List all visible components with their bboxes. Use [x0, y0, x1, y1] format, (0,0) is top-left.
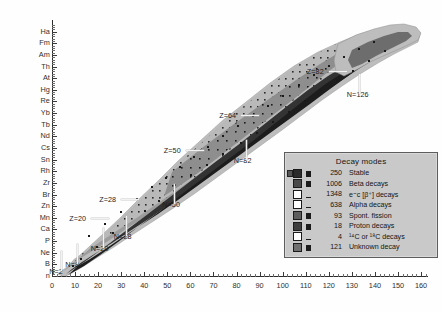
legend-bar-glyph: [306, 223, 311, 230]
magic-number-label: N=126: [347, 90, 369, 99]
y-axis-label: Cs: [4, 144, 50, 152]
legend-bar-glyph: [306, 191, 311, 198]
magic-number-guide-line: [91, 218, 109, 219]
y-axis-label: Am: [4, 51, 50, 59]
y-axis-label: Hg: [4, 86, 50, 94]
y-axis-label: Ca: [4, 225, 50, 233]
legend-title: Decay modes: [285, 157, 437, 166]
magic-number-guide-line: [77, 244, 78, 264]
y-axis-label: Th: [4, 63, 50, 71]
y-axis-label: Rh: [4, 167, 50, 175]
chart-of-nuclides: HaFmAmThAtHgReYbTbNdCsSnRhZrBrZnMnCaPNeB…: [0, 0, 442, 312]
magic-number-guide-line: [121, 199, 139, 200]
magic-number-guide-line: [359, 74, 360, 94]
magic-number-guide-line: [246, 140, 247, 160]
y-axis-label: Ha: [4, 28, 50, 36]
legend-marker-icon: [287, 170, 293, 177]
y-axis-label: Zn: [4, 202, 50, 210]
legend-bar-glyph: [306, 170, 311, 177]
y-axis-label: Re: [4, 97, 50, 105]
legend-bar-glyph: [306, 244, 311, 251]
legend-bar-glyph: [306, 212, 311, 219]
legend-row: 93Spont. fission: [293, 210, 437, 220]
x-axis-label: 160: [406, 281, 436, 290]
legend-row: 1348e⁼c [β⁺] decays: [293, 189, 437, 199]
legend-color-swatch: [293, 169, 302, 178]
y-axis-label: P: [4, 237, 50, 245]
legend-count: 93: [316, 212, 342, 220]
y-axis-label: At: [4, 74, 50, 82]
y-axis-label: B: [4, 260, 50, 268]
legend-color-swatch: [293, 200, 302, 209]
legend-count: 4: [316, 233, 342, 241]
legend-bar-glyph: [306, 180, 311, 187]
magic-number-label: N=28: [114, 232, 132, 241]
legend-color-swatch: [293, 211, 302, 220]
magic-number-label: N=50: [162, 200, 180, 209]
magic-number-guide-line: [241, 115, 259, 116]
legend-label: Unknown decay: [349, 243, 399, 251]
y-axis-label: Yb: [4, 109, 50, 117]
y-axis-label: Nd: [4, 132, 50, 140]
legend-row: 250Stable: [293, 168, 437, 178]
magic-number-guide-line: [61, 251, 62, 271]
magic-number-label: N=20: [91, 244, 109, 253]
magic-number-label: Z=20: [69, 214, 86, 223]
legend-row: 1006Beta decays: [293, 179, 437, 189]
legend-count: 121: [316, 243, 342, 251]
magic-number-label: Z=28: [99, 195, 116, 204]
band-superheavy-bulge: [334, 24, 421, 76]
legend-color-swatch: [293, 190, 302, 199]
y-axis-label: n: [4, 272, 50, 280]
magic-number-label: N=82: [234, 156, 252, 165]
legend-row: 4¹⁴C or ¹⁸C decays: [293, 232, 437, 242]
legend-label: Alpha decays: [349, 201, 392, 209]
legend-color-swatch: [293, 222, 302, 231]
y-axis-label: Br: [4, 191, 50, 199]
magic-number-guide-line: [103, 228, 104, 248]
legend-label: e⁼c [β⁺] decays: [349, 190, 398, 199]
legend-row: 638Alpha decays: [293, 200, 437, 210]
legend-count: 250: [316, 169, 342, 177]
legend-bar-glyph: [306, 233, 311, 240]
legend-label: ¹⁴C or ¹⁸C decays: [349, 233, 405, 241]
magic-number-guide-line: [186, 150, 204, 151]
legend-count: 1348: [316, 190, 342, 198]
legend-label: Spont. fission: [349, 212, 392, 220]
y-axis-labels: HaFmAmThAtHgReYbTbNdCsSnRhZrBrZnMnCaPNeB…: [0, 0, 50, 312]
legend-row: 18Proton decays: [293, 221, 437, 231]
y-axis-label: Sn: [4, 156, 50, 164]
y-axis-label: Ne: [4, 249, 50, 257]
legend-label: Beta decays: [349, 180, 388, 188]
legend-label: Stable: [349, 169, 369, 177]
magic-number-guide-line: [174, 184, 175, 204]
magic-number-label: Z=64: [219, 111, 236, 120]
legend-color-swatch: [293, 232, 302, 241]
legend-count: 18: [316, 222, 342, 230]
legend-color-swatch: [293, 243, 302, 252]
y-axis-label: Fm: [4, 39, 50, 47]
legend-color-swatch: [293, 179, 302, 188]
legend-row: 121Unknown decay: [293, 242, 437, 252]
y-axis-label: Tb: [4, 121, 50, 129]
legend-count: 1006: [316, 180, 342, 188]
decay-modes-legend: Decay modes 250Stable1006Beta decays1348…: [284, 152, 438, 258]
legend-count: 638: [316, 201, 342, 209]
legend-label: Proton decays: [349, 222, 394, 230]
magic-number-label: Z=82: [307, 67, 324, 76]
y-axis-label: Mn: [4, 214, 50, 222]
legend-bar-glyph: [306, 201, 311, 208]
magic-number-guide-line: [329, 71, 347, 72]
magic-number-guide-line: [126, 216, 127, 236]
y-axis-label: Zr: [4, 179, 50, 187]
magic-number-label: Z=50: [164, 146, 181, 155]
